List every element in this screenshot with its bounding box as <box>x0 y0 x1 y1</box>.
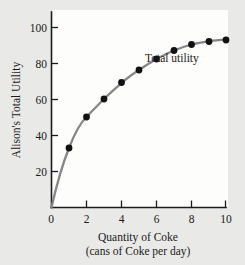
chart-figure: 100 80 60 40 20 0 2 4 6 8 10 Total utili… <box>0 0 245 265</box>
x-axis-ticks <box>87 201 226 208</box>
x-tick-label-0: 0 <box>48 213 54 225</box>
x-tick-label-4: 4 <box>119 213 125 225</box>
x-tick-label-2: 2 <box>84 213 90 225</box>
y-axis-title: Alison's Total Utility <box>10 62 23 159</box>
data-point-5 <box>136 67 143 74</box>
data-point-4 <box>118 79 125 86</box>
y-tick-label-20: 20 <box>36 166 48 178</box>
x-tick-label-10: 10 <box>220 213 232 225</box>
data-point-2 <box>83 114 90 121</box>
data-point-9 <box>206 38 213 45</box>
data-point-1 <box>66 145 73 152</box>
x-axis-subtitle: (cans of Coke per day) <box>86 245 191 258</box>
x-axis-title: Quantity of Coke <box>98 231 178 244</box>
x-tick-label-8: 8 <box>189 213 195 225</box>
y-tick-label-40: 40 <box>36 130 48 142</box>
x-tick-label-6: 6 <box>154 213 160 225</box>
total-utility-chart: 100 80 60 40 20 0 2 4 6 8 10 Total utili… <box>0 0 245 265</box>
y-tick-label-60: 60 <box>36 94 48 106</box>
y-tick-label-100: 100 <box>30 22 48 34</box>
series-annotation-total-utility: Total utility <box>145 52 199 65</box>
data-point-3 <box>101 96 108 103</box>
y-tick-label-80: 80 <box>36 58 48 70</box>
total-utility-curve <box>52 40 227 208</box>
data-point-10 <box>223 37 230 44</box>
data-point-8 <box>188 41 195 48</box>
y-axis-ticks <box>52 28 59 172</box>
